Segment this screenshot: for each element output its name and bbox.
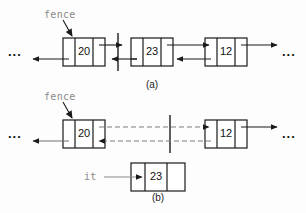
panel-a-node-1-value: 20 — [75, 45, 93, 57]
panel-b-fence-pointer-line — [63, 102, 72, 118]
panel-b-node-1-value: 20 — [75, 127, 93, 139]
panel-b-caption: (b) — [137, 192, 179, 203]
panel-a-node-3-value: 12 — [217, 45, 235, 57]
panel-a-left-ellipsis: ... — [8, 45, 22, 58]
panel-a-right-ellipsis: ... — [282, 45, 296, 58]
panel-b-it-label: it — [84, 171, 97, 182]
panel-a-node-2-value: 23 — [143, 45, 161, 57]
panel-b-right-ellipsis: ... — [282, 127, 296, 140]
panel-b-fence-label: fence — [44, 91, 76, 102]
panel-b-detached-node-value: 23 — [145, 170, 167, 182]
panel-b-left-ellipsis: ... — [8, 127, 22, 140]
panel-a-fence-label: fence — [44, 9, 76, 20]
figure-root: fence ... ... 20 23 12 (a) fence ... ...… — [0, 0, 306, 213]
panel-a-fence-pointer-line — [63, 20, 72, 36]
panel-b-node-2-value: 12 — [217, 127, 235, 139]
panel-a-caption: (a) — [131, 79, 173, 90]
